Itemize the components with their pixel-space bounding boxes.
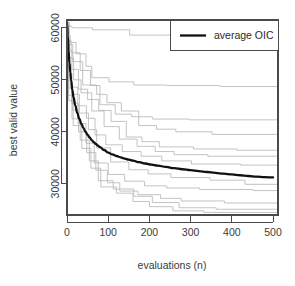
- y-tick-label: 30000: [49, 169, 61, 198]
- best-valid-value-line-chart: 30000400005000060000 0100200300400500 ev…: [0, 0, 295, 286]
- chart-legend[interactable]: average OIC: [170, 20, 278, 50]
- y-tick-label: 60000: [49, 13, 61, 42]
- y-tick-label: 50000: [49, 65, 61, 94]
- x-tick-label: 200: [141, 226, 159, 238]
- y-tick-label: 40000: [49, 117, 61, 146]
- x-tick-label: 400: [223, 226, 241, 238]
- x-axis-title: evaluations (n): [138, 259, 207, 271]
- chart-figure: 30000400005000060000 0100200300400500 ev…: [0, 0, 295, 286]
- y-axis-title: best valid value: [7, 84, 19, 157]
- legend-label-average-oic: average OIC: [214, 29, 274, 41]
- x-tick-label: 0: [64, 226, 70, 238]
- x-tick-label: 300: [182, 226, 200, 238]
- x-tick-label: 500: [264, 226, 282, 238]
- x-tick-label: 100: [99, 226, 117, 238]
